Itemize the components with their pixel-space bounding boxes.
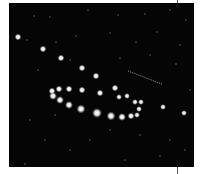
faint-star [54, 114, 55, 115]
bright-dot [136, 106, 142, 112]
faint-star [189, 89, 190, 90]
bright-dot [65, 101, 73, 109]
bright-dot [112, 85, 119, 92]
faint-star [156, 31, 157, 32]
faint-stars [24, 9, 190, 164]
faint-star [169, 139, 170, 140]
faint-star [69, 149, 70, 150]
bright-dot [15, 34, 22, 41]
bright-dot [92, 108, 102, 118]
faint-star [139, 134, 140, 135]
bright-dot [56, 96, 64, 104]
faint-star [124, 159, 125, 160]
bright-dot [79, 65, 86, 72]
bright-dot [128, 113, 135, 120]
faint-star [135, 41, 136, 42]
bright-dot-sequence [15, 34, 188, 122]
faint-star [179, 44, 180, 45]
star-field-photo [9, 3, 194, 167]
bright-dot [40, 46, 47, 53]
faint-star [185, 19, 186, 20]
bright-dot [132, 99, 138, 105]
frame-marker-bottom [177, 167, 178, 174]
faint-star [175, 63, 176, 64]
bright-dot [107, 112, 116, 121]
faint-star [159, 155, 160, 156]
bright-dot [118, 113, 126, 121]
faint-star [69, 59, 70, 60]
faint-star [87, 9, 88, 10]
bright-dot [77, 105, 86, 114]
faint-star [89, 139, 90, 140]
meteor-streak [128, 71, 162, 84]
faint-star [109, 32, 110, 33]
bright-dot [79, 87, 86, 94]
faint-star [109, 129, 110, 130]
faint-star [184, 149, 185, 150]
faint-star [149, 54, 150, 55]
faint-star [37, 69, 38, 70]
faint-star [26, 39, 27, 40]
bright-dot [134, 112, 140, 118]
bright-dot [181, 110, 187, 116]
faint-star [33, 15, 34, 16]
faint-star [144, 13, 145, 14]
bright-dot [56, 86, 63, 93]
bright-dot [93, 73, 100, 80]
bright-dot [58, 55, 65, 62]
faint-star [44, 139, 45, 140]
bright-dot [66, 86, 73, 93]
faint-star [75, 35, 76, 36]
faint-star [119, 57, 120, 58]
bright-dot [116, 94, 122, 100]
star-field-canvas [9, 3, 194, 167]
bright-dot [138, 99, 144, 105]
bright-dot [49, 92, 57, 100]
faint-star [29, 119, 30, 120]
faint-star [49, 16, 50, 17]
faint-star [24, 163, 25, 164]
faint-star [55, 41, 56, 42]
bright-dot [160, 104, 166, 110]
bright-dot [124, 93, 130, 99]
faint-star [117, 14, 118, 15]
bright-dot [97, 90, 104, 97]
faint-star [169, 9, 170, 10]
